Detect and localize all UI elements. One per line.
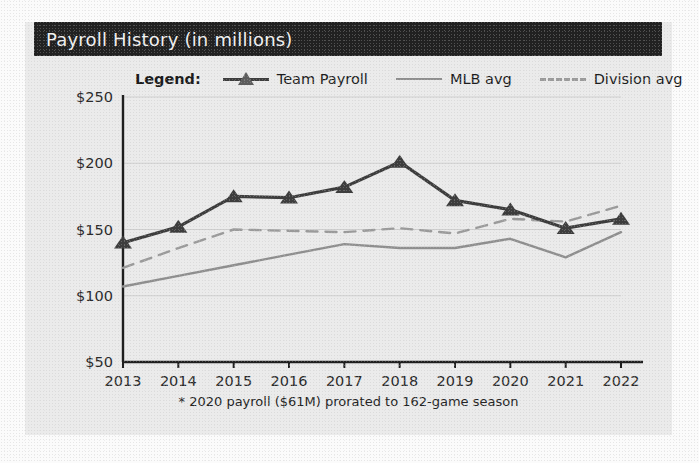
- y-axis-tick-label: $100: [76, 288, 113, 304]
- y-axis-tick-label: $50: [85, 354, 113, 370]
- x-axis-tick-label: 2019: [437, 373, 474, 389]
- data-point-marker: [335, 180, 353, 193]
- data-point-marker: [391, 155, 409, 168]
- x-axis-tick-label: 2016: [271, 373, 308, 389]
- y-axis-tick-label: $250: [76, 89, 113, 105]
- x-axis-tick-label: 2017: [326, 373, 363, 389]
- x-axis-tick-label: 2018: [381, 373, 418, 389]
- x-axis-tick-label: 2020: [492, 373, 529, 389]
- x-axis-tick-label: 2014: [160, 373, 197, 389]
- payroll-history-card: Payroll History (in millions) Legend: Te…: [25, 22, 672, 435]
- chart-footnote: * 2020 payroll ($61M) prorated to 162-ga…: [25, 394, 672, 409]
- data-point-marker: [612, 212, 630, 225]
- x-axis-tick-label: 2015: [215, 373, 252, 389]
- payroll-line-chart: $50$100$150$200$250201320142015201620172…: [25, 22, 672, 435]
- x-axis-tick-label: 2013: [105, 373, 142, 389]
- y-axis-tick-label: $150: [76, 222, 113, 238]
- y-axis-tick-label: $200: [76, 155, 113, 171]
- x-axis-tick-label: 2021: [547, 373, 584, 389]
- x-axis-tick-label: 2022: [603, 373, 640, 389]
